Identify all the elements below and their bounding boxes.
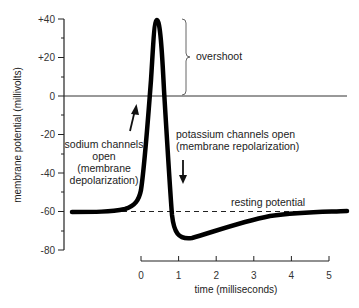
sodium-annotation: sodium channels open (membrane depolariz… <box>65 138 144 186</box>
svg-text:0: 0 <box>49 91 55 102</box>
potassium-annotation: potassium channels open (membrane repola… <box>176 128 299 152</box>
svg-text:(membrane repolarization): (membrane repolarization) <box>176 140 299 152</box>
action-potential-chart: +40 +20 0 -20 -40 -60 -80 membrane poten… <box>0 0 359 308</box>
svg-text:0: 0 <box>138 270 144 281</box>
svg-text:-20: -20 <box>41 129 56 140</box>
resting-potential-label: resting potential <box>231 196 305 208</box>
svg-text:-60: -60 <box>41 206 56 217</box>
overshoot-brace <box>182 19 190 95</box>
svg-text:potassium channels open: potassium channels open <box>176 128 295 140</box>
svg-text:3: 3 <box>251 270 257 281</box>
x-axis-title: time (milliseconds) <box>195 284 278 295</box>
y-axis-ticks <box>58 19 64 250</box>
y-axis-title: membrane potential (millivolts) <box>12 67 23 203</box>
svg-text:depolarization): depolarization) <box>70 174 139 186</box>
svg-text:+20: +20 <box>38 52 55 63</box>
svg-text:5: 5 <box>326 270 332 281</box>
svg-text:-80: -80 <box>41 245 56 256</box>
svg-text:1: 1 <box>176 270 182 281</box>
potassium-arrow-icon <box>179 160 187 184</box>
svg-text:4: 4 <box>289 270 295 281</box>
svg-text:open: open <box>92 150 116 162</box>
x-axis-ticks <box>141 256 329 261</box>
svg-text:+40: +40 <box>38 14 55 25</box>
overshoot-label: overshoot <box>196 50 242 62</box>
sodium-arrow-icon <box>130 104 139 131</box>
x-axis-tick-labels: 0 1 2 3 4 5 <box>138 270 332 281</box>
svg-text:-40: -40 <box>41 168 56 179</box>
svg-text:sodium channels: sodium channels <box>65 138 144 150</box>
y-axis-tick-labels: +40 +20 0 -20 -40 -60 -80 <box>38 14 55 256</box>
svg-text:(membrane: (membrane <box>77 162 131 174</box>
svg-text:2: 2 <box>213 270 219 281</box>
